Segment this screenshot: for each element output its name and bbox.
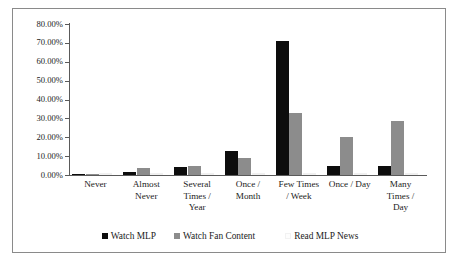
y-axis-tick-label: 30.00% bbox=[37, 114, 64, 123]
y-axis-tick-label: 20.00% bbox=[37, 133, 64, 142]
bar bbox=[225, 151, 238, 175]
bar bbox=[378, 166, 391, 175]
legend-item-label: Watch MLP bbox=[111, 231, 156, 241]
bar bbox=[340, 137, 353, 175]
x-axis-tick-label-line: Once / Day bbox=[324, 179, 375, 191]
bar bbox=[137, 168, 150, 175]
legend-item[interactable]: Watch Fan Content bbox=[174, 231, 255, 241]
x-axis-line bbox=[69, 175, 427, 176]
bar bbox=[201, 173, 214, 175]
black-square-icon bbox=[102, 233, 108, 239]
bar bbox=[354, 173, 367, 175]
x-axis-tick-label-line: Times / bbox=[172, 191, 223, 203]
bar-group bbox=[375, 24, 426, 175]
bar bbox=[303, 173, 316, 175]
y-axis-tick-label: 50.00% bbox=[37, 76, 64, 85]
legend-item[interactable]: Read MLP News bbox=[285, 231, 358, 241]
bar bbox=[123, 172, 136, 175]
y-axis-tick-label: 70.00% bbox=[37, 38, 64, 47]
x-axis-tick-label: ManyTimes /Day bbox=[375, 179, 426, 214]
x-axis-tick-label-line: / Week bbox=[273, 191, 324, 203]
bar bbox=[188, 166, 201, 175]
y-axis-tick-label: 80.00% bbox=[37, 20, 64, 29]
bar bbox=[150, 173, 163, 175]
legend-item-label: Watch Fan Content bbox=[183, 231, 255, 241]
x-axis-labels: NeverAlmostNeverSeveralTimes /YearOnce /… bbox=[70, 179, 426, 231]
bar bbox=[391, 121, 404, 175]
x-axis-tick-label-line: Almost bbox=[121, 179, 172, 191]
x-axis-tick-label-line: Once / bbox=[223, 179, 274, 191]
bar bbox=[327, 166, 340, 175]
bar bbox=[289, 113, 302, 175]
plot-area bbox=[70, 24, 426, 175]
bar bbox=[86, 174, 99, 175]
y-axis-labels: 80.00%70.00%60.00%50.00%40.00%30.00%20.0… bbox=[13, 9, 63, 189]
bar-group bbox=[223, 24, 274, 175]
white-square-icon bbox=[285, 233, 291, 239]
x-axis-tick-label: Once /Month bbox=[223, 179, 274, 202]
x-axis-tick-label-line: Never bbox=[121, 191, 172, 203]
x-axis-tick-label-line: Many bbox=[375, 179, 426, 191]
bar-group bbox=[121, 24, 172, 175]
y-axis-tick-label: 60.00% bbox=[37, 57, 64, 66]
bar bbox=[276, 41, 289, 175]
bar-group bbox=[324, 24, 375, 175]
x-axis-tick-label: Few Times/ Week bbox=[273, 179, 324, 202]
bar-group bbox=[172, 24, 223, 175]
x-axis-tick-label: Never bbox=[70, 179, 121, 191]
x-axis-tick-label-line: Times / bbox=[375, 191, 426, 203]
x-axis-tick-label: AlmostNever bbox=[121, 179, 172, 202]
chart-legend: Watch MLPWatch Fan ContentRead MLP News bbox=[13, 227, 447, 245]
bar bbox=[252, 173, 265, 175]
legend-item[interactable]: Watch MLP bbox=[102, 231, 156, 241]
y-axis-tick-label: 10.00% bbox=[37, 152, 64, 161]
x-axis-tick-label: Once / Day bbox=[324, 179, 375, 191]
x-axis-tick-label-line: Never bbox=[70, 179, 121, 191]
legend-item-label: Read MLP News bbox=[294, 231, 358, 241]
bar bbox=[72, 174, 85, 175]
bar-group bbox=[273, 24, 324, 175]
y-axis-tick-label: 0.00% bbox=[41, 171, 63, 180]
chart-figure: 80.00%70.00%60.00%50.00%40.00%30.00%20.0… bbox=[12, 8, 446, 253]
x-axis-tick-label-line: Month bbox=[223, 191, 274, 203]
bar bbox=[238, 158, 251, 175]
x-axis-tick-label: SeveralTimes /Year bbox=[172, 179, 223, 214]
x-axis-tick-label-line: Several bbox=[172, 179, 223, 191]
bar-group bbox=[70, 24, 121, 175]
gray-square-icon bbox=[174, 233, 180, 239]
bar bbox=[405, 173, 418, 175]
x-axis-tick-label-line: Year bbox=[172, 202, 223, 214]
x-axis-tick-label-line: Few Times bbox=[273, 179, 324, 191]
y-axis-tick-label: 40.00% bbox=[37, 95, 64, 104]
bar bbox=[174, 167, 187, 175]
x-axis-tick-label-line: Day bbox=[375, 202, 426, 214]
bar bbox=[99, 173, 112, 175]
